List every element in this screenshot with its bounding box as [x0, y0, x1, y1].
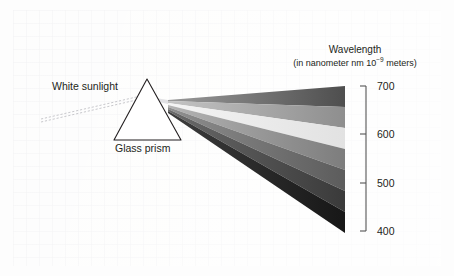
axis-subtitle-exponent: −9 [376, 56, 383, 63]
tick-label-400: 400 [377, 225, 395, 237]
spectrum-fan [168, 86, 345, 233]
glass-prism-label: Glass prism [115, 142, 170, 155]
wavelength-axis-title: Wavelength [280, 44, 430, 57]
axis-subtitle-prefix: (in nanometer nm 10 [293, 58, 376, 68]
wavelength-axis-subtitle: (in nanometer nm 10−9 meters) [280, 58, 430, 69]
wavelength-axis [360, 86, 366, 231]
white-sunlight-label: White sunlight [52, 80, 118, 93]
wavelength-axis-title-block: Wavelength (in nanometer nm 10−9 meters) [280, 44, 430, 69]
tick-label-700: 700 [377, 80, 395, 92]
tick-label-600: 600 [377, 128, 395, 140]
axis-subtitle-suffix: meters) [384, 58, 417, 68]
tick-label-500: 500 [377, 177, 395, 189]
prism-dispersion-figure: White sunlight Glass prism Wavelength (i… [0, 0, 454, 276]
